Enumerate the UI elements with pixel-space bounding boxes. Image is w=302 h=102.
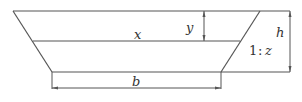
y-arrow-up-icon: [203, 11, 206, 17]
label-slope-one: 1: [249, 43, 257, 58]
h-arrow-up-icon: [289, 11, 292, 17]
channel-diagram: x y h 1 : z b: [0, 0, 302, 102]
label-h: h: [276, 25, 284, 40]
b-arrow-right-icon: [215, 87, 221, 90]
label-x: x: [134, 27, 142, 42]
label-b: b: [132, 74, 140, 89]
label-y: y: [185, 20, 194, 35]
y-arrow-down-icon: [203, 35, 206, 41]
label-slope-z: z: [264, 43, 272, 58]
b-arrow-left-icon: [52, 87, 58, 90]
label-slope-sep: :: [258, 43, 262, 58]
h-arrow-down-icon: [289, 66, 292, 72]
